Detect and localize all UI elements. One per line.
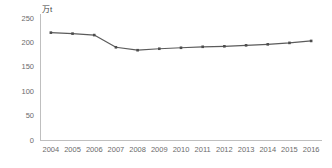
data-point-marker bbox=[223, 45, 226, 48]
y-tick-label: 50 bbox=[26, 111, 34, 120]
y-axis-unit-label: 万t bbox=[42, 5, 53, 14]
y-tick-label: 250 bbox=[21, 14, 34, 23]
x-tick-label: 2009 bbox=[151, 145, 168, 154]
data-point-marker bbox=[136, 49, 139, 52]
data-point-marker bbox=[71, 32, 74, 35]
x-tick-label: 2012 bbox=[216, 145, 233, 154]
data-point-marker bbox=[50, 31, 53, 34]
y-tick-label: 100 bbox=[21, 87, 34, 96]
x-tick-label: 2006 bbox=[86, 145, 103, 154]
y-tick-label: 150 bbox=[21, 62, 34, 71]
x-tick-label: 2014 bbox=[259, 145, 276, 154]
x-tick-label: 2013 bbox=[238, 145, 255, 154]
data-point-marker bbox=[180, 46, 183, 49]
data-point-marker bbox=[93, 34, 96, 37]
x-tick-label: 2010 bbox=[173, 145, 190, 154]
data-point-marker bbox=[158, 47, 161, 50]
x-tick-label: 2008 bbox=[129, 145, 146, 154]
x-tick-label: 2011 bbox=[195, 145, 211, 154]
data-point-marker bbox=[266, 43, 269, 46]
data-point-marker bbox=[201, 45, 204, 48]
x-tick-label: 2004 bbox=[43, 145, 60, 154]
line-chart: 050100150200250 200420052006200720082009… bbox=[0, 0, 332, 168]
y-tick-label: 200 bbox=[21, 38, 34, 47]
data-point-marker bbox=[288, 42, 291, 45]
x-axis-tick-labels: 2004200520062007200820092010201120122013… bbox=[43, 145, 320, 154]
data-point-marker bbox=[245, 44, 248, 47]
data-point-marker bbox=[310, 40, 313, 43]
x-tick-label: 2007 bbox=[108, 145, 125, 154]
chart-canvas: 050100150200250 200420052006200720082009… bbox=[0, 0, 332, 168]
y-tick-label: 0 bbox=[30, 136, 34, 145]
x-tick-label: 2016 bbox=[303, 145, 320, 154]
x-tick-label: 2015 bbox=[281, 145, 298, 154]
x-tick-label: 2005 bbox=[64, 145, 81, 154]
data-point-marker bbox=[115, 46, 118, 49]
y-axis-tick-labels: 050100150200250 bbox=[21, 14, 34, 145]
